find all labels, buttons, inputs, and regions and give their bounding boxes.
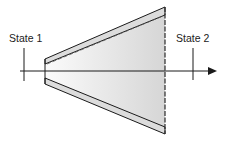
state2-label: State 2 (176, 32, 209, 44)
flow-arrow-icon (208, 67, 217, 75)
state1-label: State 1 (9, 32, 42, 44)
diffuser-diagram: State 1 State 2 (0, 0, 227, 144)
